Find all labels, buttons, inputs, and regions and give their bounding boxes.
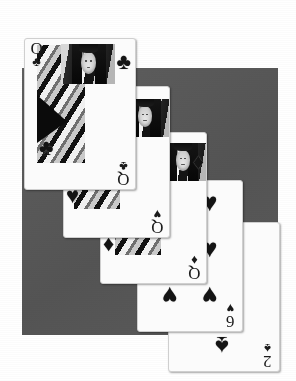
club-pip: ♣ — [39, 137, 53, 159]
card-corner-top-left: Q ♣ — [28, 40, 45, 68]
card-corner-bottom-right: Q ♥ — [149, 208, 166, 236]
card-corner-bottom-right: Q ♦ — [186, 254, 203, 282]
face — [138, 106, 152, 127]
hair-top — [136, 99, 154, 107]
diamond-pip: ♦ — [193, 151, 204, 173]
spade-icon: ♠ — [259, 342, 276, 355]
queen-portrait — [61, 44, 115, 84]
card-corner-bottom-right: 2 ♠ — [259, 342, 276, 370]
hair-top — [79, 44, 98, 53]
card-corner-bottom-right: Q ♣ — [115, 160, 132, 188]
heart-pip: ♥ — [202, 282, 217, 308]
face — [81, 52, 96, 74]
mouth — [87, 67, 91, 69]
club-pip: ♣ — [117, 51, 131, 73]
spade-pip: ♠ — [215, 332, 229, 358]
mouth — [143, 120, 146, 122]
mouth — [181, 164, 184, 166]
face — [176, 150, 190, 171]
card-photograph: 2 ♠ 2 ♠ ♠ ♠ 6 ♥ 6 ♥ ♥ ♥ ♥ ♥ ♥ ♥ — [0, 0, 296, 381]
card-queen-of-clubs[interactable]: Q ♣ Q ♣ ♣ ♣ — [24, 38, 136, 190]
heart-icon: ♥ — [222, 302, 239, 315]
card-corner-bottom-right: 6 ♥ — [222, 302, 239, 330]
heart-pip: ♥ — [162, 282, 177, 308]
hair-top — [174, 143, 192, 151]
